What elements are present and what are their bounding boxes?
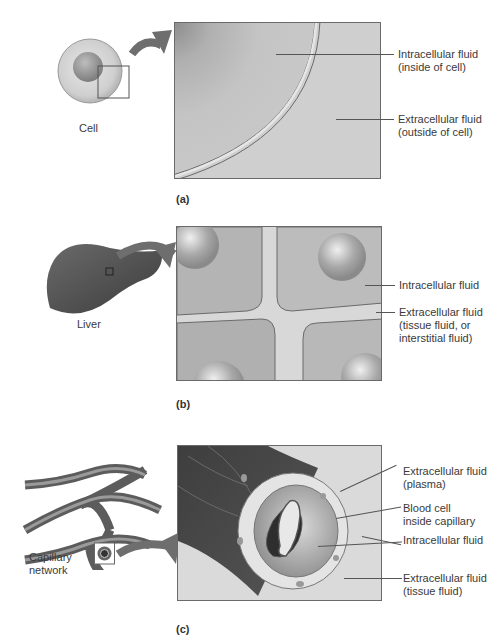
label-line: (outside of cell) [398,126,482,139]
label-line: Extracellular fluid [403,572,487,585]
tissue-fluid-label: Extracellular fluid (tissue fluid) [403,572,487,598]
panel-label-a: (a) [176,193,189,205]
plasma-label: Extracellular fluid (plasma) [403,465,487,491]
cell-illustration [50,28,160,118]
blood-cell-label: Blood cell inside capillary [403,502,475,528]
label-line: inside capillary [403,515,475,528]
label-line: (tissue fluid) [403,585,487,598]
panel-label-c: (c) [176,623,189,635]
capillary-network-label: Capillary network [29,551,72,577]
label-line: (plasma) [403,478,487,491]
leader-line [336,119,394,120]
panel-a-magnified-view [174,22,381,179]
liver-label: Liver [77,318,101,331]
label-line: (inside of cell) [398,61,478,74]
panel-b-magnified-view [176,226,382,381]
label-line: (tissue fluid, or [399,319,483,332]
intracellular-fluid-label: Intracellular fluid (inside of cell) [398,48,478,74]
leader-line [344,578,402,579]
panel-label-b: (b) [176,398,190,410]
label-line: Intracellular fluid [398,48,478,61]
leader-line [376,312,395,313]
intracellular-fluid-label: Intracellular fluid [403,534,483,547]
label-line: network [29,564,72,577]
tissue-cells-illustration [177,227,382,381]
label-line: Extracellular fluid [398,113,482,126]
leader-line [365,285,395,286]
extracellular-fluid-label: Extracellular fluid (tissue fluid, or in… [399,306,483,345]
intracellular-fluid-label: Intracellular fluid [399,279,479,292]
cell-membrane-illustration [175,23,381,179]
label-line: Capillary [29,551,72,564]
extracellular-fluid-label: Extracellular fluid (outside of cell) [398,113,482,139]
label-line: interstitial fluid) [399,332,483,345]
label-line: Extracellular fluid [399,306,483,319]
label-line: Blood cell [403,502,475,515]
label-line: Extracellular fluid [403,465,487,478]
leader-line [276,54,394,55]
cell-label: Cell [79,122,98,135]
